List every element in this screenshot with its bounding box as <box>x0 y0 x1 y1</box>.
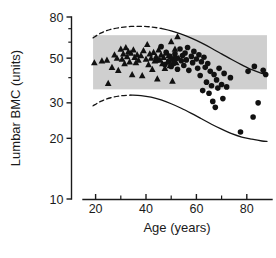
data-point-circle <box>211 72 217 78</box>
lower-limit-curve-dashed <box>93 95 131 106</box>
data-point-circle <box>245 69 251 75</box>
data-point-circle <box>196 52 202 58</box>
data-point-circle <box>209 83 215 89</box>
data-point-circle <box>185 45 191 51</box>
y-tick-label: 20 <box>50 132 64 146</box>
x-tick-label: 20 <box>89 202 103 216</box>
data-point-circle <box>173 55 179 61</box>
data-point-circle <box>219 82 225 88</box>
data-point-circle <box>184 57 190 63</box>
data-point-circle <box>205 61 211 67</box>
data-point-circle <box>204 79 210 85</box>
data-point-circle <box>191 49 197 55</box>
y-axis-ticks <box>67 17 72 199</box>
data-point-circle <box>155 57 161 63</box>
data-point-circle <box>181 63 187 69</box>
data-point-circle <box>189 54 195 60</box>
data-point-circle <box>250 114 256 120</box>
data-point-circle <box>221 71 227 77</box>
data-point-circle <box>175 67 181 73</box>
data-point-circle <box>220 96 226 102</box>
data-point-circle <box>163 49 169 55</box>
data-point-circle <box>224 84 230 90</box>
data-point-circle <box>228 75 234 81</box>
y-tick-label: 30 <box>50 96 64 110</box>
data-point-circle <box>238 129 244 135</box>
y-axis: 1020305080 <box>50 11 72 207</box>
scatter-plot: 1020305080 20406080 Age (years) Lumbar B… <box>0 0 276 258</box>
data-point-circle <box>171 61 177 67</box>
x-axis-ticks <box>96 194 247 200</box>
data-point-circle <box>197 73 203 79</box>
data-point-circle <box>210 99 216 105</box>
data-point-circle <box>201 54 207 60</box>
x-tick-label: 40 <box>139 202 153 216</box>
y-tick-label: 10 <box>50 193 64 207</box>
y-axis-title: Lumbar BMC (units) <box>8 50 23 166</box>
y-tick-label: 50 <box>50 52 64 66</box>
lower-limit-curve-solid <box>131 95 267 141</box>
data-point-circle <box>206 90 212 96</box>
data-point-circle <box>213 105 219 111</box>
data-point-circle <box>214 77 220 83</box>
x-axis-title: Age (years) <box>143 220 210 235</box>
data-point-circle <box>252 64 258 70</box>
x-axis-tick-labels: 20406080 <box>89 202 254 216</box>
y-tick-label: 80 <box>50 11 64 25</box>
chart-figure: 1020305080 20406080 Age (years) Lumbar B… <box>0 0 276 258</box>
data-point-circle <box>200 88 206 94</box>
data-point-circle <box>216 66 222 72</box>
data-point-circle <box>186 68 192 74</box>
y-axis-tick-labels: 1020305080 <box>50 11 64 207</box>
data-point-circle <box>158 44 164 50</box>
x-tick-label: 80 <box>240 202 254 216</box>
data-point-circle <box>195 66 201 72</box>
data-point-circle <box>177 46 183 52</box>
data-point-circle <box>182 50 188 56</box>
x-tick-label: 60 <box>189 202 203 216</box>
x-axis: 20406080 <box>83 194 272 216</box>
data-point-circle <box>255 100 261 106</box>
data-point-circle <box>263 72 269 78</box>
